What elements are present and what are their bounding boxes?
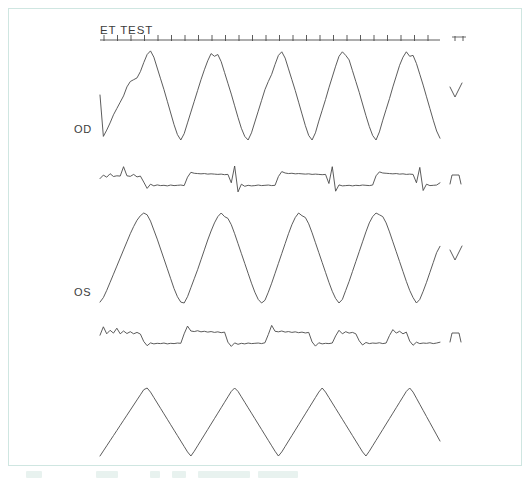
- trace-2: [100, 166, 440, 192]
- trace-label-od: OD: [74, 123, 92, 135]
- calibration-marker-4: [450, 333, 461, 342]
- page-title: ET TEST: [100, 24, 153, 36]
- trace-5: [100, 388, 440, 456]
- recording-plot-area: ET TEST OD OS: [0, 0, 532, 480]
- trace-canvas: [0, 0, 532, 480]
- trace-4: [100, 325, 440, 346]
- trace-3: [100, 213, 440, 303]
- calibration-marker-2: [450, 175, 461, 184]
- trace-label-os: OS: [74, 286, 91, 298]
- trace-1: [100, 51, 440, 140]
- calibration-marker-1: [450, 83, 462, 97]
- timeline-axis: [100, 35, 466, 41]
- calibration-markers: [450, 83, 462, 342]
- trace-lines: [100, 51, 440, 456]
- calibration-marker-3: [450, 246, 462, 260]
